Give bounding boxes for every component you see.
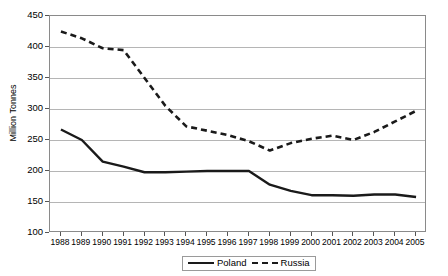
y-axis-tick-label: 400 [13, 41, 43, 51]
x-axis-tick-mark [81, 232, 82, 236]
legend-label-russia: Russia [281, 258, 310, 268]
legend-item-russia: Russia [252, 258, 310, 268]
x-axis-tick-mark [227, 232, 228, 236]
x-axis-tick-mark [102, 232, 103, 236]
x-axis-tick-mark [248, 232, 249, 236]
x-axis-tick-label: 2005 [400, 238, 430, 247]
y-axis-tick-label: 450 [13, 10, 43, 20]
x-axis-tick-mark [415, 232, 416, 236]
x-axis-tick-mark [144, 232, 145, 236]
legend-label-poland: Poland [217, 258, 247, 268]
x-axis-tick-mark [332, 232, 333, 236]
x-axis-tick-mark [290, 232, 291, 236]
series-line-russia [61, 32, 416, 151]
x-axis-tick-mark [352, 232, 353, 236]
y-axis-tick-label: 150 [13, 196, 43, 206]
chart-legend: Poland Russia [182, 256, 316, 271]
series-lines [50, 16, 427, 233]
x-axis-tick-mark [394, 232, 395, 236]
x-axis-tick-mark [123, 232, 124, 236]
x-axis-tick-mark [269, 232, 270, 236]
x-axis-tick-mark [206, 232, 207, 236]
y-axis-tick-label: 300 [13, 103, 43, 113]
x-axis-tick-mark [185, 232, 186, 236]
x-axis-tick-mark [373, 232, 374, 236]
y-axis-tick-label: 250 [13, 134, 43, 144]
series-line-poland [61, 129, 416, 197]
y-axis-tick-mark [45, 232, 49, 233]
plot-area [49, 15, 426, 232]
x-axis-tick-mark [60, 232, 61, 236]
x-axis-tick-mark [311, 232, 312, 236]
legend-swatch-poland-icon [188, 262, 214, 265]
x-axis-tick-mark [164, 232, 165, 236]
legend-swatch-russia-icon [252, 262, 278, 264]
legend-item-poland: Poland [188, 258, 247, 268]
y-axis-tick-label: 350 [13, 72, 43, 82]
y-axis-tick-label: 200 [13, 165, 43, 175]
line-chart: Million Tonnes 450400350300250200150100 … [0, 0, 448, 276]
y-axis-tick-label: 100 [13, 227, 43, 237]
